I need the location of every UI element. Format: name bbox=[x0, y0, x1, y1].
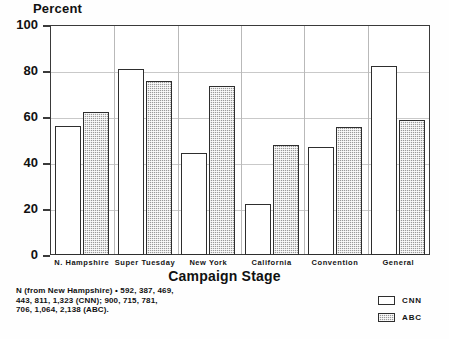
y-tick-label-0: 0 bbox=[2, 247, 38, 262]
footnote-line-0: N (from New Hampshire) • 592, 387, 469, bbox=[16, 286, 246, 296]
legend-label-cnn: CNN bbox=[402, 296, 422, 305]
bar-abc-0 bbox=[83, 112, 109, 255]
y-tick-100 bbox=[43, 25, 50, 27]
footnote-annotation: N (from New Hampshire) • 592, 387, 469,4… bbox=[16, 286, 246, 315]
x-tick-label-3: California bbox=[240, 258, 303, 267]
bar-abc-1 bbox=[146, 81, 172, 255]
x-tick-label-2: New York bbox=[177, 258, 240, 267]
x-axis-title: Campaign Stage bbox=[0, 268, 449, 284]
bar-abc-3 bbox=[273, 145, 299, 255]
y-tick-40 bbox=[43, 163, 50, 165]
legend-item-cnn: CNN bbox=[378, 294, 422, 307]
legend-item-abc: ABC bbox=[378, 311, 422, 324]
bar-chart-figure: Percent 020406080100 N. HampshireSuper T… bbox=[0, 0, 449, 339]
bars-layer bbox=[50, 25, 430, 255]
bar-cnn-0 bbox=[55, 126, 81, 255]
footnote-line-2: 706, 1,064, 2,138 (ABC). bbox=[16, 305, 246, 315]
bar-cnn-4 bbox=[308, 147, 334, 255]
y-tick-label-60: 60 bbox=[2, 109, 38, 124]
bar-cnn-2 bbox=[181, 153, 207, 255]
legend-swatch-cnn bbox=[378, 296, 395, 305]
legend-swatch-abc bbox=[378, 313, 395, 322]
footnote-line-1: 443, 811, 1,323 (CNN); 900, 715, 781, bbox=[16, 296, 246, 306]
y-tick-80 bbox=[43, 71, 50, 73]
x-tick-label-4: Convention bbox=[303, 258, 366, 267]
y-tick-label-100: 100 bbox=[2, 17, 38, 32]
x-tick-label-5: General bbox=[367, 258, 430, 267]
bar-cnn-1 bbox=[118, 69, 144, 255]
x-tick-label-0: N. Hampshire bbox=[50, 258, 113, 267]
bar-abc-4 bbox=[336, 127, 362, 255]
legend-label-abc: ABC bbox=[402, 313, 422, 322]
y-tick-label-40: 40 bbox=[2, 155, 38, 170]
y-axis-title: Percent bbox=[33, 1, 82, 16]
y-tick-0 bbox=[43, 255, 50, 257]
bar-cnn-3 bbox=[245, 204, 271, 255]
bar-cnn-5 bbox=[371, 66, 397, 255]
y-tick-label-80: 80 bbox=[2, 63, 38, 78]
bar-abc-2 bbox=[209, 86, 235, 255]
y-tick-60 bbox=[43, 117, 50, 119]
y-tick-label-20: 20 bbox=[2, 201, 38, 216]
x-tick-label-1: Super Tuesday bbox=[113, 258, 176, 267]
y-tick-20 bbox=[43, 209, 50, 211]
legend: CNN ABC bbox=[378, 294, 422, 328]
bar-abc-5 bbox=[399, 120, 425, 255]
